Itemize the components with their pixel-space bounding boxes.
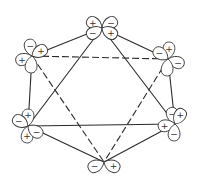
- plus-sign: +: [37, 46, 45, 56]
- minus-sign: −: [170, 129, 178, 139]
- minus-sign: −: [156, 48, 164, 58]
- orbital-lobes: +−−+−+++−−+−+−−++−−+: [10, 14, 188, 175]
- dashed-triangle-edge: [104, 59, 168, 162]
- solid-triangle-edge: [102, 28, 175, 124]
- diagram-canvas: +−−+−+++−−+−+−−++−−+: [0, 0, 204, 188]
- minus-sign: −: [91, 161, 99, 171]
- minus-sign: −: [89, 28, 97, 38]
- minus-sign: −: [15, 116, 23, 126]
- minus-sign: −: [33, 127, 41, 137]
- orbital-lobe: +: [101, 156, 122, 174]
- dashed-triangle-edge: [32, 56, 104, 162]
- plus-sign: +: [18, 55, 26, 65]
- bond-lines: [28, 28, 175, 162]
- dashed-triangle-edge: [32, 56, 168, 59]
- plus-sign: +: [176, 110, 184, 120]
- minus-sign: −: [26, 41, 34, 51]
- plus-sign: +: [107, 28, 115, 38]
- minus-sign: −: [174, 58, 182, 68]
- orbital-lobe: −: [86, 156, 107, 174]
- plus-sign: +: [161, 121, 169, 131]
- orbital-hexagon-diagram: +−−+−+++−−+−+−−++−−+: [0, 0, 204, 188]
- solid-triangle-edge: [28, 124, 175, 126]
- plus-sign: +: [110, 161, 118, 171]
